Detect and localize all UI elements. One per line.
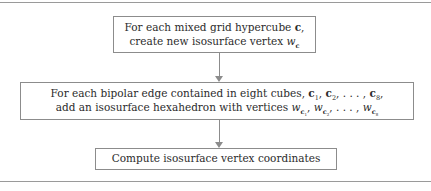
box-2-sep-2: , . . . ,: [336, 87, 369, 99]
down-arrow-icon-1: [214, 53, 225, 82]
box-1-line-1-text: For each mixed grid hypercube: [125, 21, 295, 33]
flowchart-box-create-vertex: For each mixed grid hypercube c, create …: [113, 16, 316, 53]
down-arrow-icon-2: [214, 120, 225, 148]
box-2-vertex-8-subscript: c8: [372, 108, 379, 116]
box-2-vertex-8-symbol: w: [363, 101, 372, 113]
box-2-vertex-1-symbol: w: [292, 101, 301, 113]
box-2-line-1-comma: ,: [380, 87, 383, 99]
box-1-vertex-symbol: w: [287, 35, 296, 47]
box-2-line-1: For each bipolar edge contained in eight…: [51, 87, 384, 101]
flowchart-box-compute-coordinates: Compute isosurface vertex coordinates: [95, 148, 337, 170]
box-2-line-2-text: add an isosurface hexahedron with vertic…: [56, 101, 292, 113]
figure-bottom-rule: [0, 181, 431, 182]
box-1-line-2: create new isosurface vertex wc: [129, 35, 299, 49]
box-1-vertex-subscript: c: [296, 42, 300, 50]
box-2-sep-1: ,: [319, 87, 326, 99]
arrow-shaft: [219, 120, 220, 143]
box-2-vertex-sep-1: ,: [307, 101, 314, 113]
box-2-line-1-text: For each bipolar edge contained in eight…: [51, 87, 309, 99]
box-1-vertex-subscript-text: c: [296, 42, 300, 50]
box-1-line-1-comma: ,: [301, 21, 304, 33]
box-1-line-2-text: create new isosurface vertex: [129, 35, 286, 47]
box-2-vertex-2-symbol: w: [314, 101, 323, 113]
arrow-shaft: [219, 53, 220, 77]
box-2-vertex-sep-2: , . . . ,: [329, 101, 362, 113]
figure-top-rule: [0, 2, 431, 3]
box-1-line-1: For each mixed grid hypercube c,: [125, 21, 305, 35]
flowchart-figure: For each mixed grid hypercube c, create …: [0, 0, 431, 191]
flowchart-box-add-hexahedron: For each bipolar edge contained in eight…: [20, 82, 414, 120]
box-2-line-2: add an isosurface hexahedron with vertic…: [56, 101, 378, 115]
box-3-line-1: Compute isosurface vertex coordinates: [112, 152, 321, 166]
